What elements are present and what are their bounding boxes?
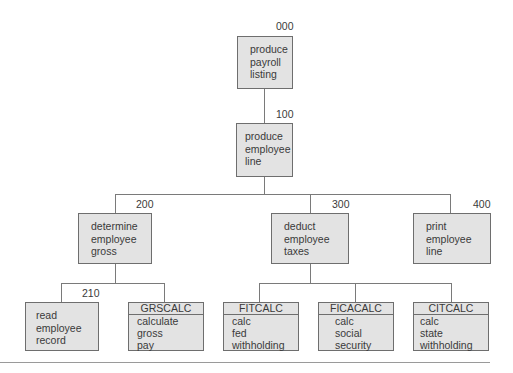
node-determine-employee-gross: determine employee gross [78,213,152,264]
edge-300-down [310,263,311,283]
node-label: determine employee gross [91,220,138,258]
edge-000-100 [264,88,265,123]
edge-to-300 [310,194,311,213]
level3-bus-left [61,283,165,284]
node-number-210: 210 [82,287,100,299]
node-produce-payroll-listing: produce payroll listing [237,36,293,89]
node-number-400: 400 [473,198,491,210]
edge-to-200 [115,194,116,213]
bottom-rule [0,362,490,363]
module-name: CITCALC [414,303,488,315]
module-label: calc fed withholding [232,315,285,351]
node-print-employee-line: print employee line [413,213,491,264]
node-label: produce employee line [245,130,291,168]
node-label: read employee record [36,309,82,347]
edge-to-400 [450,194,451,213]
module-name: FICACALC [319,303,393,315]
module-label: calc state withholding [420,315,473,351]
node-number-000: 000 [276,20,294,32]
level2-bus [115,194,451,195]
node-number-300: 300 [332,198,350,210]
module-fitcalc: FITCALC calc fed withholding [223,302,299,351]
edge-to-citcalc [451,283,452,302]
edge-100-down [264,176,265,194]
node-label: produce payroll listing [250,43,288,81]
node-label: print employee line [426,220,472,258]
node-read-employee-record: read employee record [25,302,99,351]
module-citcalc: CITCALC calc state withholding [413,302,489,351]
module-label: calc social security [335,315,371,351]
node-deduct-employee-taxes: deduct employee taxes [271,213,349,264]
module-grscalc: GRSCALC calculate gross pay [128,302,204,351]
edge-to-fitcalc [259,283,260,302]
edge-to-ficacalc [355,283,356,302]
edge-200-down [115,263,116,283]
module-name: GRSCALC [129,303,203,315]
node-number-100: 100 [276,108,294,120]
edge-to-grscalc [164,283,165,302]
module-label: calculate gross pay [137,315,178,351]
node-produce-employee-line: produce employee line [236,123,293,177]
node-number-200: 200 [136,198,154,210]
module-ficacalc: FICACALC calc social security [318,302,394,351]
edge-to-210 [61,283,62,302]
node-label: deduct employee taxes [284,220,330,258]
module-name: FITCALC [224,303,298,315]
